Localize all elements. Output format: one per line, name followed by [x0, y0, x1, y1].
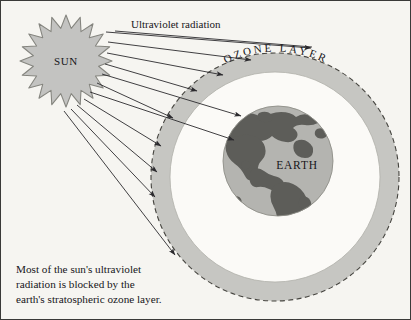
earth-label: EARTH — [276, 159, 318, 171]
diagram-stage: SUN EARTH OZONE LAYER Ultraviolet radiat… — [1, 1, 410, 319]
ultraviolet-radiation-label: Ultraviolet radiation — [131, 18, 221, 30]
diagram-page: SUN EARTH OZONE LAYER Ultraviolet radiat… — [0, 0, 411, 320]
caption-line-3: earth's stratospheric ozone layer. — [16, 293, 162, 305]
sun-label: SUN — [54, 55, 78, 67]
caption-line-2: radiation is blocked by the — [16, 278, 135, 290]
caption-line-1: Most of the sun's ultraviolet — [16, 263, 142, 275]
ozone-layer-diagram: SUN EARTH OZONE LAYER Ultraviolet radiat… — [1, 1, 411, 320]
